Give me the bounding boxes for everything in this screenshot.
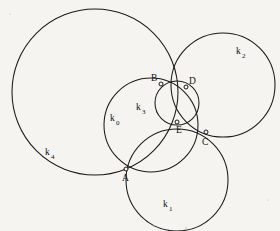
circle-label-subscript-k4: 4 xyxy=(51,153,55,161)
point-label-D: D xyxy=(189,76,196,86)
circle-label-letter-k0: k xyxy=(110,113,115,123)
point-label-A: A xyxy=(122,173,129,183)
vertex-point-D xyxy=(184,85,188,89)
geometry-canvas: k0k1k2k3k4ABCDE xyxy=(0,0,280,231)
vertex-point-E xyxy=(175,120,179,124)
circle-label-subscript-k3: 3 xyxy=(142,108,146,116)
circle-label-letter-k1: k xyxy=(163,199,168,209)
vertex-point-A xyxy=(124,167,128,171)
vertex-point-C xyxy=(204,130,208,134)
circle-diagram-figure: k0k1k2k3k4ABCDE xyxy=(0,0,280,231)
circle-label-subscript-k2: 2 xyxy=(242,52,246,60)
circle-label-subscript-k0: 0 xyxy=(116,119,120,127)
vertex-point-B xyxy=(159,82,163,86)
circle-label-subscript-k1: 1 xyxy=(169,205,173,213)
circle-label-letter-k3: k xyxy=(136,102,141,112)
point-label-E: E xyxy=(176,125,182,135)
point-label-C: C xyxy=(202,137,208,147)
circle-label-letter-k4: k xyxy=(45,147,50,157)
point-label-B: B xyxy=(151,73,157,83)
canvas-background xyxy=(0,0,280,231)
circle-label-letter-k2: k xyxy=(236,46,241,56)
